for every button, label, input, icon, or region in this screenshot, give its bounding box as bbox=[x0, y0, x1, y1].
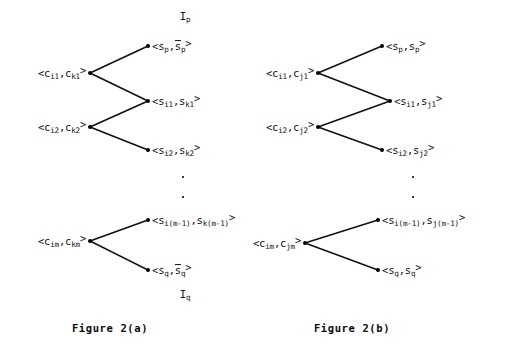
figure-2-diagram: <ci1,ck1><ci2,ck2><cim,ckm><sp,sp><si1,s… bbox=[0, 0, 530, 353]
node-label: <sq,sq> bbox=[382, 262, 421, 278]
node-dot bbox=[376, 268, 380, 272]
node-dot bbox=[316, 71, 320, 75]
node-label: <si2,sj2> bbox=[386, 142, 434, 158]
node-dot bbox=[146, 148, 150, 152]
node-dot bbox=[146, 99, 150, 103]
node-label: <ci1,cj1> bbox=[266, 65, 314, 81]
edge-line bbox=[305, 243, 378, 270]
node-dot bbox=[88, 125, 92, 129]
edge-line bbox=[90, 46, 148, 73]
node-label: <si(m-1),sj(m-1)> bbox=[382, 212, 465, 228]
node-label: <cim,cjm> bbox=[253, 235, 301, 251]
edge-line bbox=[90, 73, 148, 101]
node-label: <sp,sp> bbox=[152, 38, 191, 54]
node-dot bbox=[88, 71, 92, 75]
node-label: <ci2,ck2> bbox=[38, 119, 86, 135]
edge-line bbox=[305, 220, 378, 243]
node-label: <ci1,ck1> bbox=[38, 65, 86, 81]
vertical-ellipsis bbox=[412, 167, 414, 207]
node-label: <sp,sp> bbox=[386, 38, 425, 54]
node-dot bbox=[316, 125, 320, 129]
node-dot bbox=[88, 239, 92, 243]
node-dot bbox=[388, 99, 392, 103]
node-label: <ci2,cj2> bbox=[266, 119, 314, 135]
edge-line bbox=[90, 220, 148, 241]
node-label: <si1,sk1> bbox=[152, 93, 200, 109]
node-dot bbox=[146, 268, 150, 272]
edge-line bbox=[90, 241, 148, 270]
node-dot bbox=[303, 241, 307, 245]
edge-line bbox=[318, 73, 390, 101]
node-label: <si2,sk2> bbox=[152, 142, 200, 158]
annotation-I-q: Iq bbox=[180, 289, 191, 302]
edge-layer bbox=[0, 0, 530, 353]
node-dot bbox=[146, 44, 150, 48]
annotation-I-p: Ip bbox=[180, 11, 191, 24]
edge-line bbox=[90, 101, 148, 127]
vertical-ellipsis bbox=[182, 167, 184, 207]
node-dot bbox=[376, 218, 380, 222]
node-label: <sq,sq> bbox=[152, 262, 191, 278]
edge-line bbox=[318, 127, 382, 150]
node-label: <si(m-1),sk(m-1)> bbox=[152, 212, 235, 228]
node-dot bbox=[380, 148, 384, 152]
figure-caption: Figure 2(b) bbox=[314, 322, 390, 334]
edge-line bbox=[318, 101, 390, 127]
node-dot bbox=[380, 44, 384, 48]
edge-line bbox=[318, 46, 382, 73]
node-dot bbox=[146, 218, 150, 222]
figure-caption: Figure 2(a) bbox=[72, 322, 148, 334]
edge-line bbox=[90, 127, 148, 150]
node-label: <si1,sj1> bbox=[394, 93, 442, 109]
node-label: <cim,ckm> bbox=[38, 233, 86, 249]
